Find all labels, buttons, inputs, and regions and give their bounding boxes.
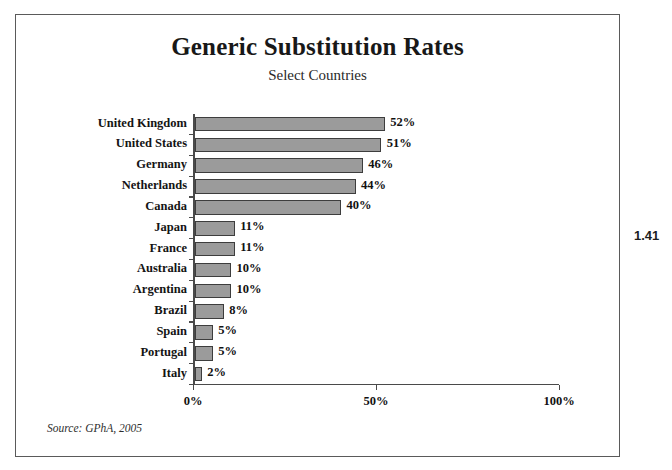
bar-value-label: 44% bbox=[361, 178, 386, 193]
bar bbox=[195, 346, 213, 361]
category-label: Canada bbox=[145, 199, 187, 214]
bar-row: 11% bbox=[193, 239, 559, 260]
bar-row: 44% bbox=[193, 177, 559, 198]
bar-row: 8% bbox=[193, 302, 559, 323]
category-label: Spain bbox=[156, 324, 187, 339]
bar bbox=[195, 158, 363, 173]
bar-row: 40% bbox=[193, 197, 559, 218]
bar bbox=[195, 367, 202, 382]
chart-frame: Generic Substitution Rates Select Countr… bbox=[15, 14, 620, 457]
category-axis-labels: United KingdomUnited StatesGermanyNether… bbox=[46, 114, 187, 385]
category-label: Portugal bbox=[140, 345, 187, 360]
category-label: Germany bbox=[136, 157, 187, 172]
x-axis-tick bbox=[559, 385, 560, 390]
bar bbox=[195, 179, 356, 194]
bar bbox=[195, 200, 341, 215]
bar-value-label: 11% bbox=[240, 219, 264, 234]
bar bbox=[195, 325, 213, 340]
category-label: United Kingdom bbox=[98, 116, 187, 131]
bar-value-label: 11% bbox=[240, 240, 264, 255]
bar-row: 11% bbox=[193, 218, 559, 239]
bar-row: 46% bbox=[193, 156, 559, 177]
x-axis-tick-label: 0% bbox=[184, 394, 203, 409]
bar-value-label: 40% bbox=[346, 198, 371, 213]
bar-value-label: 8% bbox=[229, 303, 248, 318]
category-label: Netherlands bbox=[122, 178, 187, 193]
bar-value-label: 5% bbox=[218, 323, 237, 338]
bar-value-label: 10% bbox=[237, 282, 262, 297]
bar-value-label: 5% bbox=[218, 344, 237, 359]
category-label: Japan bbox=[154, 220, 187, 235]
category-label: Australia bbox=[137, 261, 187, 276]
category-label: Italy bbox=[162, 366, 187, 381]
bar-row: 10% bbox=[193, 281, 559, 302]
bar bbox=[195, 304, 224, 319]
bar-row: 51% bbox=[193, 135, 559, 156]
x-axis-tick bbox=[376, 385, 377, 390]
bar bbox=[195, 138, 382, 153]
bar-row: 2% bbox=[193, 364, 559, 385]
bar-row: 52% bbox=[193, 114, 559, 135]
source-note: Source: GPhA, 2005 bbox=[47, 422, 142, 434]
bar bbox=[195, 263, 232, 278]
bar bbox=[195, 221, 235, 236]
chart-subtitle: Select Countries bbox=[16, 67, 619, 84]
bar-value-label: 10% bbox=[237, 261, 262, 276]
x-axis-tick-label: 50% bbox=[364, 394, 389, 409]
chart-page: Generic Substitution Rates Select Countr… bbox=[0, 0, 672, 470]
category-label: France bbox=[150, 241, 187, 256]
bar-row: 5% bbox=[193, 343, 559, 364]
x-axis: 0%50%100% bbox=[193, 385, 583, 417]
x-axis-tick-label: 100% bbox=[543, 394, 574, 409]
x-axis-tick bbox=[193, 385, 194, 390]
bar bbox=[195, 284, 232, 299]
category-label: United States bbox=[116, 136, 187, 151]
bar-value-label: 52% bbox=[390, 115, 415, 130]
bar-value-label: 46% bbox=[368, 157, 393, 172]
bar bbox=[195, 242, 235, 257]
plot-area: 52%51%46%44%40%11%11%10%10%8%5%5%2% bbox=[193, 114, 563, 385]
bar-row: 5% bbox=[193, 322, 559, 343]
margin-annotation: 1.41 bbox=[634, 228, 659, 243]
bar-value-label: 51% bbox=[387, 136, 412, 151]
category-label: Brazil bbox=[154, 303, 187, 318]
category-label: Argentina bbox=[133, 282, 187, 297]
bar-row: 10% bbox=[193, 260, 559, 281]
bar bbox=[195, 117, 385, 132]
chart-title: Generic Substitution Rates bbox=[16, 33, 619, 61]
bar-value-label: 2% bbox=[207, 365, 226, 380]
